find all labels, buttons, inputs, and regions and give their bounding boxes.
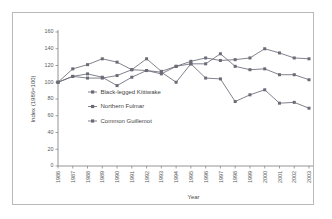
data-point-marker	[263, 67, 266, 70]
data-point-marker	[308, 57, 311, 60]
data-point-marker	[248, 93, 251, 96]
legend-marker-square	[91, 119, 94, 122]
data-point-marker	[263, 88, 266, 91]
seabird-index-line-chart: 020406080100120140160 198619871988198919…	[13, 13, 315, 206]
series-line	[58, 54, 309, 86]
data-point-marker	[204, 62, 207, 65]
x-tick-label: 1986	[55, 171, 61, 183]
legend-item[interactable]: Common Guillemot	[88, 118, 152, 124]
data-point-marker	[145, 69, 148, 72]
y-tick-label: 140	[45, 45, 54, 51]
data-point-marker	[204, 77, 207, 80]
legend-item[interactable]: Black-legged Kittiwake	[88, 89, 162, 95]
x-tick-label: 1993	[158, 171, 164, 183]
data-point-marker	[234, 58, 237, 61]
data-point-marker	[130, 76, 133, 79]
data-point-marker	[116, 74, 119, 77]
x-axis: 1986198719881989199019911992199319941995…	[55, 166, 312, 183]
series-line	[58, 64, 309, 108]
x-tick-label: 1994	[173, 171, 179, 183]
data-point-marker	[101, 57, 104, 60]
data-point-marker	[219, 52, 222, 55]
x-tick-label: 1989	[99, 171, 105, 183]
x-tick-label: 1998	[232, 171, 238, 183]
data-point-marker	[293, 101, 296, 104]
x-tick-label: 1996	[203, 171, 209, 183]
series-1	[57, 62, 311, 109]
data-point-marker	[86, 63, 89, 66]
data-point-marker	[293, 73, 296, 76]
x-tick-label: 1990	[114, 171, 120, 183]
x-axis-title: Year	[187, 194, 199, 200]
data-point-marker	[86, 72, 89, 75]
legend-label: Northern Fulmar	[101, 103, 145, 109]
data-point-marker	[278, 51, 281, 54]
data-point-marker	[145, 57, 148, 60]
y-tick-label: 120	[45, 62, 54, 68]
data-point-marker	[130, 68, 133, 71]
x-tick-label: 2000	[262, 171, 268, 183]
data-point-marker	[219, 59, 222, 62]
chart-legend: Black-legged KittiwakeNorthern FulmarCom…	[88, 89, 162, 124]
legend-label: Black-legged Kittiwake	[101, 89, 162, 95]
chart-plot-container: 020406080100120140160 198619871988198919…	[13, 13, 315, 206]
data-point-marker	[308, 107, 311, 110]
x-tick-label: 1999	[247, 171, 253, 183]
data-series-group	[57, 47, 311, 109]
x-tick-label: 1987	[70, 171, 76, 183]
data-point-marker	[57, 81, 60, 84]
data-point-marker	[248, 68, 251, 71]
y-tick-label: 20	[48, 146, 54, 152]
y-axis-title: Index (1986=100)	[30, 75, 36, 122]
data-point-marker	[160, 71, 163, 74]
data-point-marker	[71, 75, 74, 78]
data-point-marker	[219, 77, 222, 80]
data-point-marker	[189, 62, 192, 65]
x-tick-label: 1997	[218, 171, 224, 183]
legend-label: Common Guillemot	[101, 118, 153, 124]
y-axis: 020406080100120140160	[45, 28, 59, 168]
y-tick-label: 100	[45, 79, 54, 85]
x-tick-label: 2001	[277, 171, 283, 183]
data-point-marker	[101, 76, 104, 79]
data-point-marker	[86, 77, 89, 80]
legend-marker-square	[91, 90, 94, 93]
data-point-marker	[175, 65, 178, 68]
x-tick-label: 1991	[129, 171, 135, 183]
legend-marker-square	[91, 105, 94, 108]
data-point-marker	[234, 100, 237, 103]
y-tick-label: 60	[48, 112, 54, 118]
y-tick-label: 80	[48, 95, 54, 101]
data-point-marker	[71, 67, 74, 70]
data-point-marker	[278, 73, 281, 76]
data-point-marker	[234, 65, 237, 68]
x-tick-label: 1988	[85, 171, 91, 183]
data-point-marker	[293, 56, 296, 59]
chart-figure: 020406080100120140160 198619871988198919…	[12, 12, 314, 205]
y-tick-label: 40	[48, 129, 54, 135]
data-point-marker	[248, 56, 251, 59]
series-3	[57, 52, 311, 87]
x-tick-label: 1995	[188, 171, 194, 183]
x-tick-label: 2003	[306, 171, 312, 183]
x-tick-label: 1992	[144, 171, 150, 183]
data-point-marker	[278, 102, 281, 105]
data-point-marker	[175, 81, 178, 84]
legend-item[interactable]: Northern Fulmar	[88, 103, 144, 109]
data-point-marker	[116, 84, 119, 87]
data-point-marker	[308, 78, 311, 81]
data-point-marker	[204, 56, 207, 59]
data-point-marker	[116, 61, 119, 64]
y-tick-label: 160	[45, 28, 54, 34]
x-tick-label: 2002	[291, 171, 297, 183]
y-tick-label: 0	[51, 162, 54, 168]
data-point-marker	[263, 47, 266, 50]
